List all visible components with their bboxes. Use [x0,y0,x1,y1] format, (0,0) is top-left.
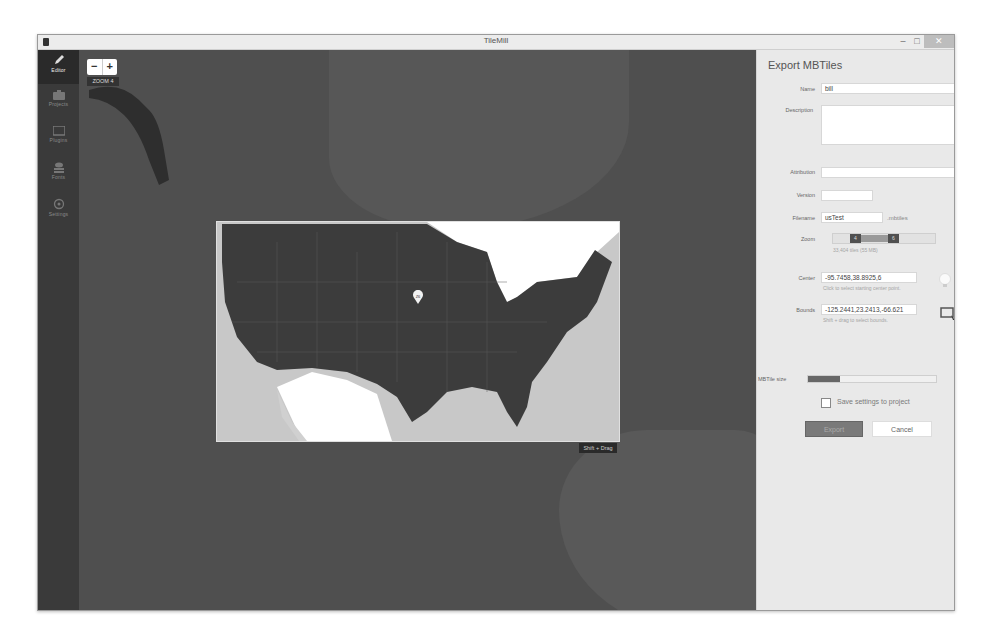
save-settings-checkbox[interactable] [821,398,831,408]
sidebar: Editor Projects Plugins Fonts Settings [38,50,79,610]
center-label: Center [757,275,815,281]
center-marker-icon[interactable]: Z6 [412,290,424,304]
maximize-button[interactable]: □ [910,35,924,48]
description-textarea[interactable] [821,105,955,145]
mbtile-size-label: MBTile size [749,376,816,382]
svg-text:Z6: Z6 [416,294,421,299]
card-icon [53,126,65,136]
name-label: Name [757,86,815,92]
gear-icon [53,198,65,210]
close-button[interactable]: ✕ [924,35,954,48]
land-shape [559,430,756,610]
bounds-label: Bounds [757,307,815,313]
lightbulb-pin-icon[interactable] [939,273,951,288]
zoom-out-button[interactable]: − [87,59,102,75]
cancel-button[interactable]: Cancel [872,421,932,437]
bounds-hint: Shift + drag to select bounds. [823,317,888,323]
shift-drag-tooltip: Shift + Drag [579,443,617,453]
filename-input[interactable]: usTest [821,212,883,223]
sidebar-item-label: Fonts [38,174,79,180]
sidebar-item-settings[interactable]: Settings [38,194,79,228]
export-button[interactable]: Export [805,421,863,437]
attribution-input[interactable] [821,167,955,178]
select-bounds-icon[interactable] [940,307,955,321]
stack-icon [53,162,65,173]
center-input[interactable]: -95.7458,38.8925,6 [821,272,917,283]
sidebar-item-label: Plugins [38,137,79,143]
save-settings-label: Save settings to project [837,398,910,405]
mbtile-size-bar [807,375,937,383]
zoom-max-handle[interactable]: 6 [888,234,899,243]
zoom-label: Zoom [757,236,815,242]
sidebar-item-plugins[interactable]: Plugins [38,122,79,156]
sidebar-item-fonts[interactable]: Fonts [38,158,79,192]
mbtile-size-fill [808,376,840,382]
zoom-tiles-hint: 33,404 tiles (55 MB) [833,247,878,253]
panel-title: Export MBTiles [768,59,842,71]
sidebar-item-editor[interactable]: Editor [38,50,79,84]
export-panel: Export MBTiles Name bill Description Att… [756,50,954,610]
filename-label: Filename [757,215,815,221]
briefcase-icon [53,90,65,100]
export-bounds-box[interactable] [216,221,620,442]
zoom-level-label: ZOOM 4 [87,77,119,86]
version-label: Version [757,192,815,198]
description-label: Description [757,107,813,113]
sidebar-item-label: Settings [38,211,79,217]
version-input[interactable] [821,190,873,201]
title-bar: TileMill – □ ✕ [38,35,954,50]
bounds-input[interactable]: -125.2441,23.2413,-66.621 [821,304,917,315]
sidebar-item-projects[interactable]: Projects [38,86,79,120]
zoom-in-button[interactable]: + [102,59,118,75]
map-view[interactable]: − + ZOOM 4 Z6 Shift + Drag [79,50,756,610]
minimize-button[interactable]: – [896,35,910,48]
sidebar-item-label: Projects [38,101,79,107]
zoom-range-slider[interactable]: 4 6 [832,233,936,244]
us-counties-map [217,222,619,441]
name-input[interactable]: bill [821,83,955,94]
center-hint: Click to select starting center point. [823,285,901,291]
attribution-label: Attribution [757,169,815,175]
tilemill-window: TileMill – □ ✕ Editor Projects Plugins F… [37,34,955,611]
pencil-icon [53,54,65,66]
land-shape [329,50,629,230]
zoom-min-handle[interactable]: 4 [850,234,861,243]
window-title: TileMill [38,36,954,45]
filename-suffix: .mbtiles [887,215,908,221]
alaska-coastline [89,80,189,190]
sidebar-item-label: Editor [38,67,79,73]
zoom-control: − + [87,59,117,75]
